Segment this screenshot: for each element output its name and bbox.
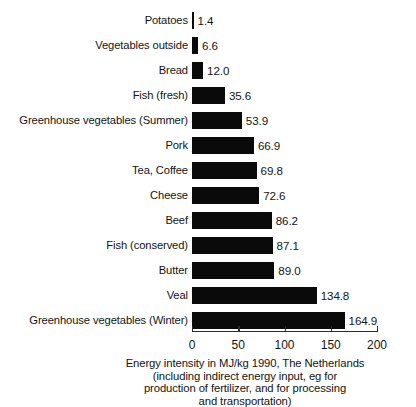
bar-value-label: 134.8 [321,283,350,308]
x-axis-tick-label: 200 [367,338,387,352]
bar [192,162,257,179]
bar-container [192,158,257,183]
chart-caption: Energy intensity in MJ/kg 1990, The Neth… [84,357,406,407]
bar-row: Greenhouse vegetables (Winter)164.9 [0,308,416,333]
bar-container [192,83,225,108]
bar [192,212,272,229]
bar-row: Cheese72.6 [0,183,416,208]
x-axis-tick [377,326,378,331]
bar [192,62,203,79]
category-label: Butter [159,258,188,283]
bar-value-label: 164.9 [349,308,378,333]
bar [192,12,194,29]
x-axis-tick [238,326,239,331]
bar-container [192,133,254,158]
caption-line-2: (including indirect energy input, eg for [84,370,406,383]
bar-value-label: 12.0 [207,58,229,83]
x-axis-tick [285,326,286,331]
bar-value-label: 89.0 [278,258,300,283]
bar [192,112,242,129]
bar-row: Tea, Coffee69.8 [0,158,416,183]
bar-value-label: 72.6 [263,183,285,208]
bar-container [192,208,272,233]
bar-row: Fish (conserved)87.1 [0,233,416,258]
bar-row: Greenhouse vegetables (Summer)53.9 [0,108,416,133]
bar-value-label: 87.1 [277,233,299,258]
bar-container [192,33,198,58]
bar-container [192,308,345,333]
bar-container [192,108,242,133]
bar [192,262,274,279]
bar-value-label: 6.6 [202,33,218,58]
bar-row: Fish (fresh)35.6 [0,83,416,108]
bar-container [192,283,317,308]
bar-container [192,233,273,258]
x-axis-tick-label: 150 [321,338,341,352]
category-label: Potatoes [145,8,188,33]
bar-row: Bread12.0 [0,58,416,83]
category-label: Greenhouse vegetables (Winter) [29,308,188,333]
bar [192,287,317,304]
bar-row: Veal134.8 [0,283,416,308]
category-label: Pork [165,133,188,158]
bar-value-label: 66.9 [258,133,280,158]
category-label: Fish (conserved) [106,233,188,258]
x-axis-tick-label: 50 [232,338,245,352]
category-label: Bread [159,58,188,83]
bar-value-label: 1.4 [198,8,214,33]
category-label: Beef [165,208,188,233]
bar-container [192,58,203,83]
bar-value-label: 86.2 [276,208,298,233]
bar [192,37,198,54]
x-axis-tick-label: 0 [189,338,196,352]
category-label: Tea, Coffee [132,158,188,183]
category-label: Veal [167,283,188,308]
bar-row: Pork66.9 [0,133,416,158]
x-axis-tick [192,326,193,331]
bar [192,312,345,329]
bar-row: Potatoes1.4 [0,8,416,33]
x-axis-tick-label: 100 [274,338,294,352]
category-label: Greenhouse vegetables (Summer) [19,108,188,133]
category-label: Fish (fresh) [133,83,188,108]
caption-line-3: production of fertilizer, and for proces… [84,382,406,395]
bar-value-label: 69.8 [261,158,283,183]
bar [192,187,259,204]
x-axis-line [192,331,378,332]
category-label: Cheese [150,183,188,208]
bar-container [192,183,259,208]
bar [192,137,254,154]
bar-value-label: 53.9 [246,108,268,133]
bar-container [192,258,274,283]
x-axis-tick [331,326,332,331]
bar-row: Beef86.2 [0,208,416,233]
bar-container [192,8,194,33]
bar-row: Butter89.0 [0,258,416,283]
bar [192,237,273,254]
bar [192,87,225,104]
bar-row: Vegetables outside6.6 [0,33,416,58]
category-label: Vegetables outside [95,33,188,58]
chart-figure: Potatoes1.4Vegetables outside6.6Bread12.… [0,0,416,407]
caption-line-4: and transportation) [84,395,406,407]
plot-area: Potatoes1.4Vegetables outside6.6Bread12.… [0,0,416,335]
caption-line-1: Energy intensity in MJ/kg 1990, The Neth… [84,357,406,370]
bar-value-label: 35.6 [229,83,251,108]
